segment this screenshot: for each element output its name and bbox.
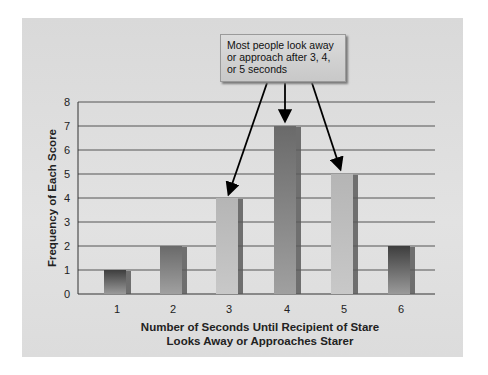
x-axis-label-line-1: Number of Seconds Until Recipient of Sta… <box>60 320 460 334</box>
bar-side <box>182 247 187 294</box>
x-tick-label: 6 <box>398 303 404 315</box>
y-tick-label: 7 <box>64 120 70 132</box>
x-axis-label-line-2: Looks Away or Approaches Starer <box>60 334 460 348</box>
bar-side <box>238 199 243 294</box>
y-tick-label: 5 <box>64 168 70 180</box>
bar-1 <box>104 270 126 294</box>
x-tick-label: 5 <box>341 303 347 315</box>
y-tick-label: 0 <box>64 288 70 300</box>
x-axis-label: Number of Seconds Until Recipient of Sta… <box>60 320 460 348</box>
callout-line-3: or 5 seconds <box>227 63 339 75</box>
y-axis-label: Frequency of Each Score <box>46 118 58 278</box>
bar-6 <box>388 246 410 294</box>
bar-side <box>126 271 131 294</box>
annotation-callout: Most people look away or approach after … <box>220 34 346 82</box>
bar-2 <box>160 246 182 294</box>
x-tick-label: 3 <box>226 303 232 315</box>
callout-line-1: Most people look away <box>227 39 339 51</box>
bar-side <box>353 175 358 294</box>
y-tick-label: 3 <box>64 216 70 228</box>
x-tick-label: 2 <box>170 303 176 315</box>
y-tick-label: 8 <box>64 96 70 108</box>
annotation-arrow <box>229 83 267 193</box>
bar-side <box>410 247 415 294</box>
bar-3 <box>216 198 238 294</box>
bar-5 <box>331 174 353 294</box>
y-tick-label: 2 <box>64 240 70 252</box>
x-tick-label: 4 <box>284 303 290 315</box>
callout-line-2: or approach after 3, 4, <box>227 51 339 63</box>
x-tick-label: 1 <box>114 303 120 315</box>
bar-side <box>296 127 301 294</box>
y-tick-label: 6 <box>64 144 70 156</box>
y-tick-label: 1 <box>64 264 70 276</box>
bar-4 <box>274 126 296 294</box>
y-tick-label: 4 <box>64 192 70 204</box>
